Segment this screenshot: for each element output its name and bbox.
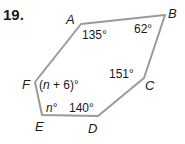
angle-c-measure: 151° <box>109 67 134 81</box>
angle-b-measure: 62° <box>134 22 152 36</box>
angle-a-measure: 135° <box>82 28 107 42</box>
hexagon-diagram: 19. A B C D E F 135° 62° 151° 140° (n + … <box>0 0 185 144</box>
vertex-label-f: F <box>22 77 31 92</box>
vertex-label-a: A <box>65 12 75 27</box>
vertex-label-b: B <box>168 6 177 21</box>
problem-number: 19. <box>3 6 24 23</box>
angle-f-measure: (n + 6)° <box>39 78 79 92</box>
angle-d-measure: 140° <box>69 101 94 115</box>
vertex-label-d: D <box>88 121 97 136</box>
vertex-label-e: E <box>35 119 44 134</box>
angle-e-measure: n° <box>46 101 58 115</box>
vertex-label-c: C <box>145 78 155 93</box>
